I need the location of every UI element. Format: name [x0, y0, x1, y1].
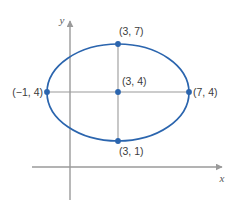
label-right-vertex: (7, 4)	[193, 86, 218, 98]
plot-canvas: (3, 7) (−1, 4) (3, 4) (7, 4) (3, 1) y x	[0, 0, 236, 206]
point-top-covertex[interactable]	[115, 41, 121, 47]
axes-group	[32, 21, 222, 200]
y-axis-label: y	[59, 14, 65, 26]
label-center: (3, 4)	[122, 75, 147, 87]
x-axis-label: x	[219, 172, 225, 184]
axis-labels-group: y x	[59, 14, 225, 184]
label-left-vertex: (−1, 4)	[12, 86, 43, 98]
point-center[interactable]	[115, 89, 121, 95]
label-top-covertex: (3, 7)	[119, 25, 144, 37]
point-left-vertex[interactable]	[44, 89, 50, 95]
label-bottom-covertex: (3, 1)	[119, 145, 144, 157]
point-bottom-covertex[interactable]	[115, 138, 121, 144]
ellipse-figure: (3, 7) (−1, 4) (3, 4) (7, 4) (3, 1) y x	[0, 0, 236, 206]
point-right-vertex[interactable]	[186, 89, 192, 95]
